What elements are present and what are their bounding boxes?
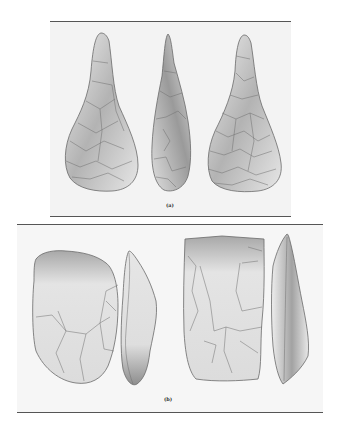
panel-b-caption: (b) [158,396,178,402]
panel-a-illustration [50,22,291,216]
figure-panel-a: (a) [50,21,291,217]
cleaver-2-side-view [272,234,309,384]
hand-axe-back-view [208,35,281,192]
cleaver-1-side-view [121,251,156,385]
hand-axe-front-view [65,33,138,191]
panel-b-illustration [17,225,323,412]
figure-panel-b: (b) [17,224,323,413]
hand-axe-side-view [152,34,191,191]
cleaver-1-face-view [33,251,118,384]
cleaver-2-face-view [184,236,265,381]
panel-a-caption: (a) [160,202,180,208]
